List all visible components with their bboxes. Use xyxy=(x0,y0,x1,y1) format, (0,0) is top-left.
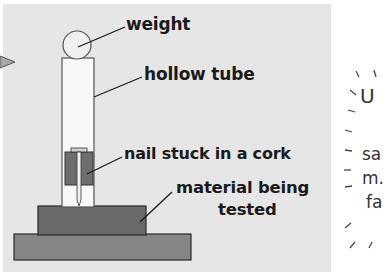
side-text-3: m. xyxy=(362,168,383,188)
arrow-icon xyxy=(0,56,15,68)
side-text-faint xyxy=(362,112,382,128)
apparatus-drawing xyxy=(0,0,383,279)
nail-head xyxy=(71,148,87,152)
nail xyxy=(77,152,81,206)
label-hollow-tube: hollow tube xyxy=(144,64,254,84)
weight-ball xyxy=(63,31,91,59)
base-block xyxy=(14,234,191,260)
label-material-line1: material being xyxy=(176,178,309,197)
side-text-2: sa xyxy=(362,144,381,164)
label-nail-cork: nail stuck in a cork xyxy=(124,144,291,163)
label-material-line2: tested xyxy=(218,200,277,219)
side-text-4: fa xyxy=(366,192,382,212)
material-block xyxy=(38,206,146,235)
side-text-1: U xyxy=(360,84,375,108)
label-weight: weight xyxy=(126,14,190,34)
